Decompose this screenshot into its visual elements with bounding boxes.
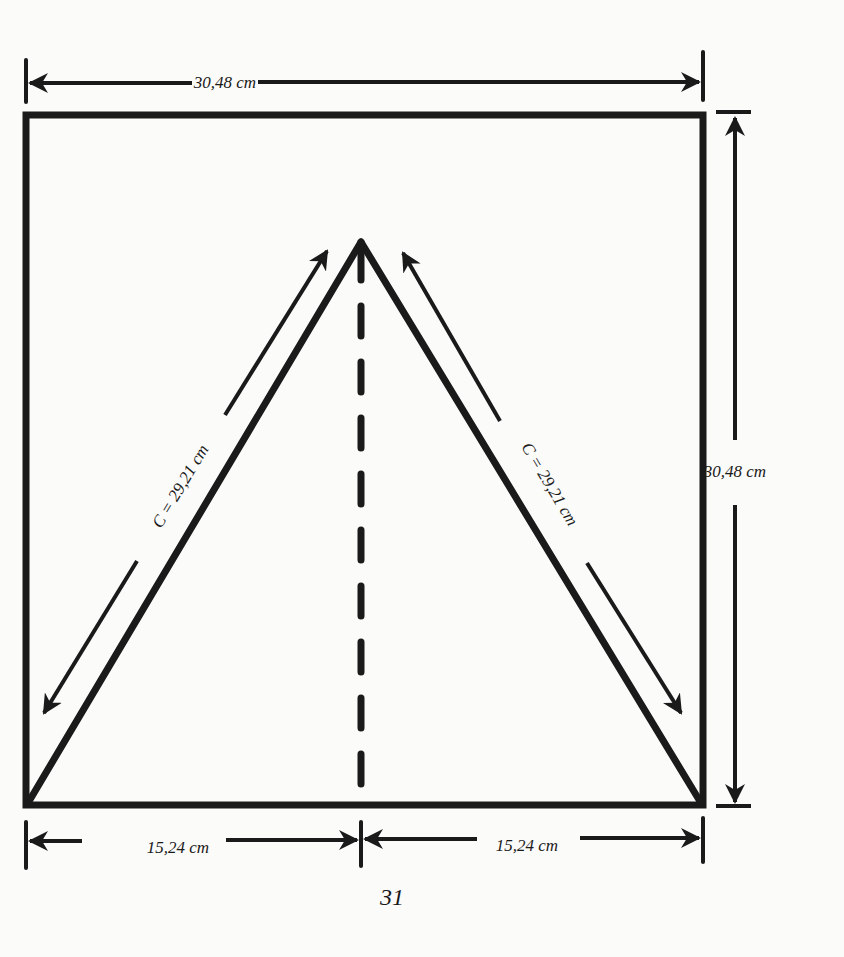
left-slant-dimension: C = 29,21 cm xyxy=(44,251,327,713)
triangle-right-side xyxy=(361,242,701,803)
top-width-label: 30,48 cm xyxy=(193,73,256,92)
left-side-label: C = 29,21 cm xyxy=(148,441,213,531)
right-height-label: 30,48 cm xyxy=(703,462,766,481)
page-number: 31 xyxy=(372,884,412,911)
bottom-right-label: 15,24 cm xyxy=(496,836,558,855)
pattern-diagram: 30,48 cm 30,48 cm C = 29,21 cm C = 29,21… xyxy=(0,0,844,957)
triangle-left-side xyxy=(28,242,361,803)
bottom-dimension: 15,24 cm 15,24 cm xyxy=(26,818,703,868)
right-dimension: 30,48 cm xyxy=(703,112,766,806)
right-slant-dimension: C = 29,21 cm xyxy=(403,253,681,713)
top-dimension: 30,48 cm xyxy=(26,52,703,102)
bottom-left-label: 15,24 cm xyxy=(147,838,209,857)
